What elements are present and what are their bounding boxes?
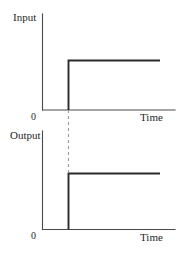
output-y-axis-label: Output [10, 130, 41, 141]
output-step-curve [69, 174, 161, 230]
step-response-figure: Input 0 Time Output 0 Time [0, 0, 181, 256]
plot-canvas [0, 0, 181, 256]
input-x-axis-label: Time [140, 112, 163, 123]
input-step-curve [69, 61, 161, 111]
input-origin-label: 0 [31, 112, 36, 122]
output-origin-label: 0 [31, 231, 36, 241]
output-x-axis-label: Time [140, 232, 163, 243]
input-y-axis-label: Input [13, 12, 36, 23]
output-panel [43, 131, 176, 230]
input-panel [43, 14, 176, 110]
